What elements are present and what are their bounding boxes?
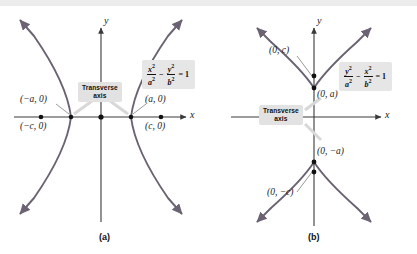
label-vertex-right-a: (a, 0) <box>145 95 166 105</box>
arrow-lower-left-b <box>257 208 271 222</box>
equation-box-a: x2 a2 − y2 b2 = 1 <box>142 60 195 89</box>
point-focus-right-a <box>159 115 164 120</box>
eq-a-operator: − <box>158 70 165 79</box>
label-vertex-left-a: (−a, 0) <box>20 95 47 105</box>
point-vertex-left-a <box>69 115 74 120</box>
eq-b-den1-pow: 2 <box>349 78 352 84</box>
y-axis-label-a: y <box>104 16 108 26</box>
point-vertex-right-a <box>129 115 134 120</box>
arrow-upper-left-a <box>20 20 34 36</box>
equation-fraction-2-a: y2 b2 <box>167 63 176 86</box>
tag-leader-right-a <box>110 101 128 114</box>
label-focus-left-a: (−c, 0) <box>20 122 46 132</box>
transverse-axis-tag-line2-a: axis <box>93 92 106 99</box>
label-vertex-upper-b: (0, a) <box>317 90 338 100</box>
tag-leader-upper-b <box>305 98 321 110</box>
point-vertex-upper-b <box>312 86 317 91</box>
label-focus-upper-b: (0, c) <box>269 46 289 56</box>
panel-b-plot <box>209 0 417 254</box>
equation-box-b: y2 a2 − x2 b2 = 1 <box>339 62 392 91</box>
arrow-upper-right-a <box>168 20 182 36</box>
label-focus-lower-b: (0, −c) <box>267 188 293 198</box>
eq-b-equals: = 1 <box>375 72 388 81</box>
point-vertex-lower-b <box>312 160 317 165</box>
eq-a-den1-pow: 2 <box>152 76 155 82</box>
label-focus-right-a: (c, 0) <box>145 122 165 132</box>
eq-b-den2-pow: 2 <box>369 78 372 84</box>
x-axis-label-b: x <box>385 110 389 120</box>
tag-leader-left-a <box>74 101 92 114</box>
arrow-upper-right-b <box>357 28 371 42</box>
arrow-lower-left-a <box>20 198 34 214</box>
label-vertex-lower-b: (0, −a) <box>317 147 344 157</box>
eq-b-operator: − <box>355 72 362 81</box>
equation-fraction-1-b: y2 a2 <box>344 65 353 88</box>
panel-b: y x Transverse axis (0, c) (0, a) (0, −a… <box>209 0 417 254</box>
leader-focus-upper-b <box>297 56 312 76</box>
eq-b-num2-pow: 2 <box>369 65 372 71</box>
x-axis-label-a: x <box>190 110 194 120</box>
transverse-axis-tag-line1-b: Transverse <box>263 107 299 114</box>
caption-b: (b) <box>308 232 320 242</box>
point-center-a <box>98 114 103 119</box>
eq-a-num1-pow: 2 <box>152 63 155 69</box>
leader-vertex-left-a <box>56 104 69 114</box>
panel-a: y x Transverse axis (−a, 0) (−c, 0) (a, … <box>0 0 208 254</box>
point-focus-upper-b <box>312 74 317 79</box>
transverse-axis-tag-line2-b: axis <box>274 115 287 122</box>
arrow-lower-right-b <box>357 208 371 222</box>
eq-a-num2-pow: 2 <box>171 63 174 69</box>
arrow-upper-left-b <box>257 28 271 42</box>
caption-a: (a) <box>99 232 110 242</box>
y-axis-label-b: y <box>317 16 321 26</box>
point-focus-left-a <box>39 115 44 120</box>
transverse-axis-tag-line1-a: Transverse <box>82 84 118 91</box>
eq-b-num1-pow: 2 <box>349 65 352 71</box>
eq-a-den2-pow: 2 <box>172 76 175 82</box>
equation-fraction-2-b: x2 b2 <box>364 65 373 88</box>
equation-fraction-1-a: x2 a2 <box>147 63 156 86</box>
point-focus-lower-b <box>312 170 317 175</box>
tag-leader-lower-b <box>305 124 321 140</box>
arrow-lower-right-a <box>168 198 182 214</box>
transverse-axis-tag-b: Transverse axis <box>259 105 303 125</box>
transverse-axis-tag-a: Transverse axis <box>78 82 122 102</box>
hyperbola-figure: y x Transverse axis (−a, 0) (−c, 0) (a, … <box>0 0 417 254</box>
eq-a-equals: = 1 <box>178 70 191 79</box>
leader-vertex-right-a <box>133 104 146 114</box>
